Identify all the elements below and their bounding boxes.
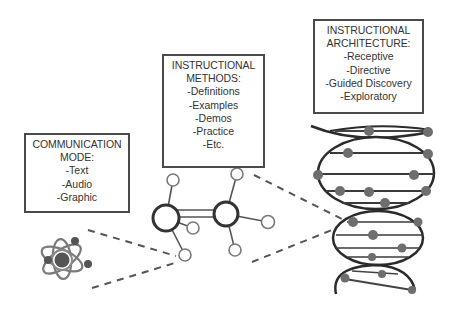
architecture-title-line2: ARCHITECTURE: — [315, 37, 422, 50]
communication-title-line1: COMMUNICATION — [26, 138, 128, 151]
methods-item: -Practice — [164, 125, 263, 138]
architecture-item: -Directive — [315, 64, 422, 77]
methods-item: -Demos — [164, 112, 263, 125]
communication-item: -Text — [26, 164, 128, 177]
dna-helix-icon — [311, 126, 434, 294]
methods-title-line1: INSTRUCTIONAL — [164, 59, 263, 72]
architecture-item: -Exploratory — [315, 90, 422, 103]
methods-item: -Etc. — [164, 138, 263, 151]
instructional-methods-box: INSTRUCTIONAL METHODS: -Definitions -Exa… — [162, 54, 265, 168]
communication-item: -Audio — [26, 178, 128, 191]
atom-icon — [38, 237, 92, 280]
architecture-item: -Receptive — [315, 50, 422, 63]
molecule-icon — [153, 168, 275, 261]
methods-item: -Examples — [164, 99, 263, 112]
communication-mode-box: COMMUNICATION MODE: -Text -Audio -Graphi… — [24, 133, 130, 213]
zoom-lines-atom-to-molecule — [88, 230, 178, 288]
architecture-item: -Guided Discovery — [315, 77, 422, 90]
methods-title-line2: METHODS: — [164, 72, 263, 85]
diagram-canvas: COMMUNICATION MODE: -Text -Audio -Graphi… — [0, 0, 463, 310]
communication-title-line2: MODE: — [26, 151, 128, 164]
instructional-architecture-box: INSTRUCTIONAL ARCHITECTURE: -Receptive -… — [313, 19, 424, 114]
methods-item: -Definitions — [164, 85, 263, 98]
architecture-title-line1: INSTRUCTIONAL — [315, 24, 422, 37]
communication-item: -Graphic — [26, 191, 128, 204]
